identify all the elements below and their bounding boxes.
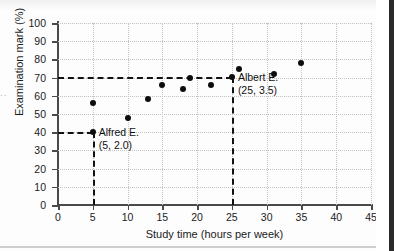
annotation: Alfred E.(5, 2.0) bbox=[99, 126, 139, 152]
x-tick-label: 15 bbox=[147, 211, 177, 223]
x-tick-label: 25 bbox=[217, 211, 247, 223]
annotation-coords: (5, 2.0) bbox=[99, 139, 139, 152]
x-tick-label: 30 bbox=[252, 211, 282, 223]
gridline-horizontal bbox=[58, 59, 371, 61]
data-point bbox=[229, 74, 235, 80]
gridline-vertical bbox=[371, 23, 373, 205]
scan-artifact-right-edge bbox=[389, 0, 394, 251]
annotation-name: Alfred E. bbox=[99, 126, 139, 139]
x-axis-title: Study time (hours per week) bbox=[58, 228, 371, 240]
y-tick-label: 50 bbox=[0, 108, 46, 120]
data-point bbox=[180, 86, 186, 92]
y-tick-label: 40 bbox=[0, 126, 46, 138]
data-point bbox=[298, 60, 304, 66]
scan-artifact-right-gutter bbox=[376, 0, 389, 251]
scatter-chart: Examination mark (%) Study time (hours p… bbox=[0, 0, 376, 251]
data-point bbox=[125, 115, 131, 121]
gridline-horizontal bbox=[58, 187, 371, 189]
gridline-horizontal bbox=[58, 96, 371, 98]
x-tick-label: 20 bbox=[182, 211, 212, 223]
x-tick-label: 5 bbox=[78, 211, 108, 223]
x-tick-label: 40 bbox=[321, 211, 351, 223]
y-tick-label: 30 bbox=[0, 144, 46, 156]
guide-line-vertical bbox=[232, 77, 234, 205]
data-point bbox=[90, 129, 96, 135]
guide-line-vertical bbox=[93, 132, 95, 205]
data-point bbox=[159, 82, 165, 88]
data-point bbox=[208, 82, 214, 88]
gridline-horizontal bbox=[58, 41, 371, 43]
x-tick-label: 0 bbox=[43, 211, 73, 223]
annotation: Albert E.(25, 3.5) bbox=[238, 71, 278, 97]
y-tick-label: 20 bbox=[0, 163, 46, 175]
x-tick-label: 35 bbox=[286, 211, 316, 223]
guide-line-horizontal bbox=[58, 132, 93, 134]
screenshot-root: . . Examination mark (%) Study time (hou… bbox=[0, 0, 394, 251]
data-point bbox=[145, 96, 151, 102]
plot-area: Alfred E.(5, 2.0)Albert E.(25, 3.5) bbox=[58, 23, 371, 205]
y-tick-label: 100 bbox=[0, 17, 46, 29]
y-tick-label: 10 bbox=[0, 181, 46, 193]
guide-line-horizontal bbox=[58, 77, 232, 79]
data-point bbox=[187, 75, 193, 81]
gridline-horizontal bbox=[58, 23, 371, 25]
annotation-coords: (25, 3.5) bbox=[238, 84, 278, 97]
gridline-horizontal bbox=[58, 169, 371, 171]
y-tick-label: 60 bbox=[0, 90, 46, 102]
annotation-name: Albert E. bbox=[238, 71, 278, 84]
gridline-horizontal bbox=[58, 114, 371, 116]
y-tick-label: 80 bbox=[0, 53, 46, 65]
y-tick-label: 70 bbox=[0, 72, 46, 84]
y-tick-label: 0 bbox=[0, 199, 46, 211]
data-point bbox=[90, 100, 96, 106]
x-tick-label: 10 bbox=[113, 211, 143, 223]
y-tick-label: 90 bbox=[0, 35, 46, 47]
